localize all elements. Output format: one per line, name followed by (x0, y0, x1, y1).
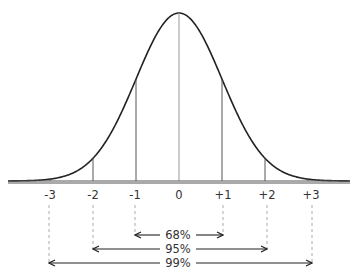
tick-label: -3 (44, 188, 55, 202)
range-label-95: 95% (165, 242, 191, 256)
tick-label: +2 (259, 188, 276, 202)
range-label-68: 68% (165, 228, 191, 242)
tick-label: -1 (129, 188, 140, 202)
tick-label: +1 (215, 188, 232, 202)
tick-label: +3 (303, 188, 320, 202)
range-99: 99% (49, 256, 312, 270)
tick-labels: -3 -2 -1 0 +1 +2 +3 (44, 188, 319, 202)
tick-label: -2 (87, 188, 98, 202)
range-95: 95% (93, 242, 267, 256)
sigma-lines (50, 13, 308, 181)
range-68: 68% (135, 228, 223, 242)
normal-distribution-diagram: -3 -2 -1 0 +1 +2 +3 68% 95% 99% (0, 0, 358, 274)
tick-label: 0 (175, 188, 182, 202)
range-label-99: 99% (165, 256, 191, 270)
